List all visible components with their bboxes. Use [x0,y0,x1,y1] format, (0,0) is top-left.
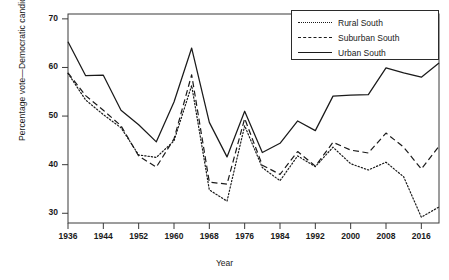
legend-key-dotted-icon [298,18,332,28]
y-tick-label: 60 [30,61,58,71]
x-tick-label: 2008 [366,231,406,241]
legend-key-dashed-icon [298,33,332,43]
x-tick-label: 1936 [48,231,88,241]
x-tick-label: 2000 [331,231,371,241]
series-line-suburban-south [68,73,439,184]
legend-key-solid-icon [298,48,332,58]
legend-item-urban-south: Urban South [298,45,432,60]
y-tick-label: 40 [30,159,58,169]
x-tick-label: 1992 [295,231,335,241]
y-tick-label: 70 [30,13,58,23]
x-tick-label: 1960 [154,231,194,241]
legend-label: Urban South [338,48,386,58]
y-tick-label: 30 [30,207,58,217]
legend-label: Rural South [338,18,383,28]
chart-figure: Percentage vote—Democratic candidate Yea… [0,0,449,280]
x-tick-label: 1984 [260,231,300,241]
x-tick-label: 1944 [83,231,123,241]
legend: Rural South Suburban South Urban South [291,10,439,60]
x-axis-ticks [68,223,421,229]
x-tick-label: 2016 [401,231,441,241]
y-tick-label: 50 [30,110,58,120]
series-line-rural-south [68,73,439,217]
series-lines [68,42,439,217]
x-tick-label: 1952 [119,231,159,241]
legend-label: Suburban South [338,33,399,43]
y-axis-ticks [62,19,68,213]
x-tick-label: 1976 [225,231,265,241]
x-tick-label: 1968 [189,231,229,241]
legend-item-rural-south: Rural South [298,15,432,30]
legend-item-suburban-south: Suburban South [298,30,432,45]
